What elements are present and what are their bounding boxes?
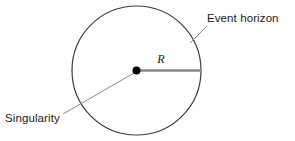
singularity-leader-line <box>63 73 134 114</box>
black-hole-diagram: Event horizon Singularity R <box>0 0 295 141</box>
diagram-canvas: Event horizon Singularity R <box>0 0 295 141</box>
singularity-dot <box>133 67 141 75</box>
event-horizon-label: Event horizon <box>207 12 279 24</box>
singularity-label: Singularity <box>5 112 60 124</box>
radius-symbol-label: R <box>156 52 165 66</box>
event-horizon-leader-line <box>190 26 207 43</box>
